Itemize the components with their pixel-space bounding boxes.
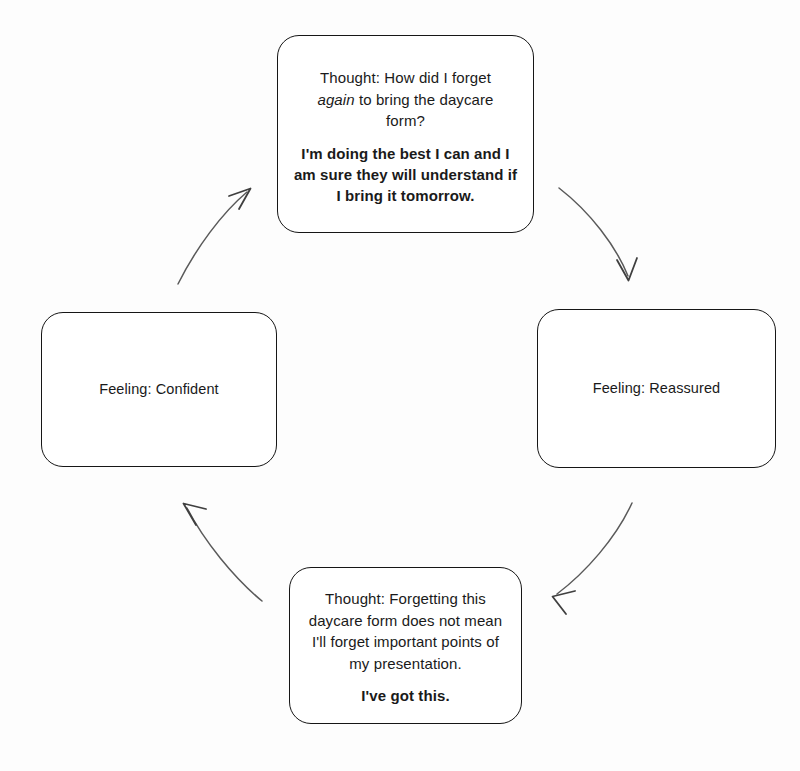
node-feeling-right[interactable]: Feeling: Reassured — [537, 309, 776, 468]
node-thought-top-question: Thought: How did I forgetagain to bring … — [317, 67, 493, 131]
node-thought-bottom-body: Thought: Forgetting this daycare form do… — [304, 588, 507, 674]
node-feeling-left[interactable]: Feeling: Confident — [41, 312, 277, 467]
node-thought-top-affirmation: I'm doing the best I can and I am sure t… — [292, 143, 519, 207]
diagram-canvas: Thought: How did I forgetagain to bring … — [0, 0, 800, 771]
arrow-right-to-bottom — [553, 503, 633, 614]
arrow-bottom-to-left — [184, 504, 263, 602]
arrow-top-to-right — [559, 188, 637, 281]
node-feeling-right-label: Feeling: Reassured — [593, 378, 721, 399]
node-feeling-left-label: Feeling: Confident — [99, 379, 219, 400]
node-thought-top[interactable]: Thought: How did I forgetagain to bring … — [277, 35, 534, 233]
arrow-left-to-top — [178, 189, 251, 285]
node-thought-bottom[interactable]: Thought: Forgetting this daycare form do… — [289, 567, 522, 724]
node-thought-bottom-affirmation: I've got this. — [361, 685, 449, 706]
